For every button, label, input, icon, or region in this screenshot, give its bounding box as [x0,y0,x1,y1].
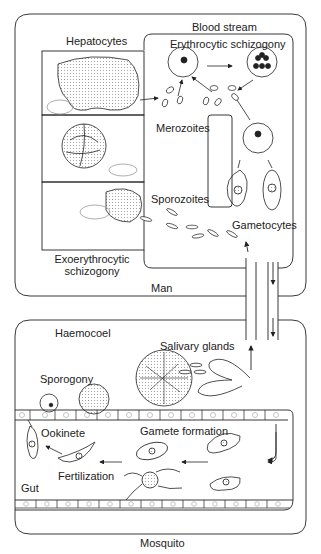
label-sporogony: Sporogony [40,373,93,385]
label-gamete-formation: Gamete formation [140,425,228,437]
label-erythrocytic-schizogony: Erythrocytic schizogony [170,38,286,50]
label-merozoites: Merozoites [156,122,210,134]
label-man: Man [151,282,172,294]
label-salivary-glands: Salivary glands [160,340,235,352]
label-gametocytes: Gametocytes [232,219,297,231]
label-haemocoel: Haemocoel [55,327,111,339]
oocyst-medium [79,384,109,414]
label-blood-stream: Blood stream [192,21,257,33]
label-fertilization: Fertilization [58,470,114,482]
label-gut: Gut [21,482,39,494]
label-mosquito: Mosquito [140,537,185,549]
exflagellating-male [142,472,158,488]
label-sporozoites: Sporozoites [151,193,209,205]
label-exo-line2: schizogony [64,265,119,277]
label-exo-line1: Exoerythrocytic [54,253,129,265]
label-exoerythrocytic-schizogony: Exoerythrocytic schizogony [54,253,130,277]
label-ookinete: Ookinete [41,427,85,439]
life-cycle-diagram [0,0,321,554]
label-hepatocytes: Hepatocytes [66,35,127,47]
liver-schizont-early [106,189,142,222]
